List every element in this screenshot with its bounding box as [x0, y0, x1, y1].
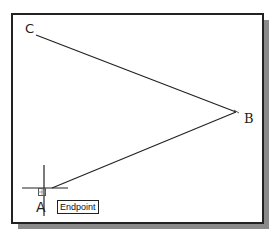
line-cb[interactable]	[36, 35, 236, 112]
snap-tooltip: Endpoint	[57, 200, 99, 214]
point-label-c: C	[25, 22, 34, 35]
point-label-b: B	[244, 112, 254, 125]
drawing-canvas[interactable]	[0, 0, 272, 231]
line-ba[interactable]	[52, 112, 236, 188]
point-label-a: A	[36, 200, 46, 214]
